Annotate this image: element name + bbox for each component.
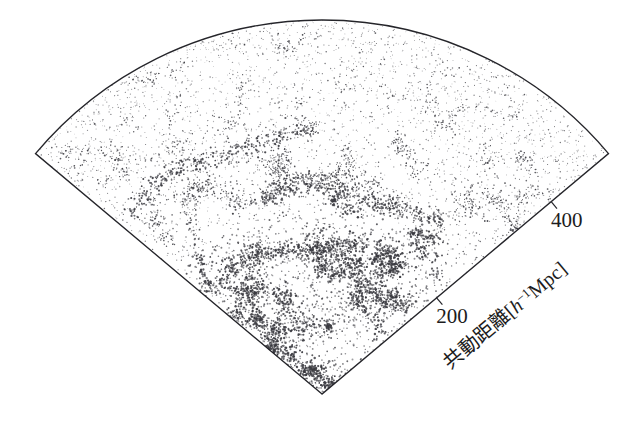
galaxy-point [279, 94, 280, 95]
galaxy-point [334, 295, 336, 297]
galaxy-point [261, 192, 262, 193]
galaxy-point [206, 140, 207, 141]
galaxy-point [270, 211, 271, 212]
galaxy-point [342, 289, 344, 291]
galaxy-point [531, 187, 532, 188]
galaxy-point [269, 144, 270, 145]
galaxy-point [187, 54, 188, 55]
galaxy-point [235, 267, 236, 268]
galaxy-point [145, 166, 146, 167]
galaxy-point [273, 138, 275, 140]
galaxy-point [327, 276, 329, 278]
galaxy-point [405, 41, 406, 42]
galaxy-point [327, 188, 329, 190]
galaxy-point [374, 183, 375, 184]
galaxy-point [133, 154, 134, 155]
galaxy-point [275, 197, 277, 199]
galaxy-point [106, 178, 108, 180]
galaxy-point [448, 123, 450, 125]
galaxy-point [349, 168, 350, 169]
galaxy-point [242, 86, 244, 88]
galaxy-point [419, 216, 421, 218]
galaxy-point [469, 216, 471, 218]
galaxy-point [353, 84, 354, 85]
galaxy-point [358, 295, 360, 297]
galaxy-point [484, 220, 486, 222]
galaxy-point [243, 43, 244, 44]
galaxy-point [542, 98, 543, 99]
galaxy-point [453, 214, 454, 215]
galaxy-point [441, 273, 443, 275]
galaxy-point [461, 181, 462, 182]
galaxy-point [467, 107, 468, 108]
galaxy-point [377, 256, 378, 257]
galaxy-point [339, 146, 340, 147]
galaxy-point [474, 85, 475, 86]
galaxy-point [268, 358, 270, 360]
galaxy-point [509, 106, 510, 107]
galaxy-point [325, 203, 327, 205]
galaxy-point [125, 92, 126, 93]
galaxy-point [315, 370, 317, 372]
galaxy-point [275, 183, 277, 185]
galaxy-point [363, 266, 365, 268]
galaxy-point [299, 100, 300, 101]
galaxy-point [189, 49, 190, 50]
galaxy-point [369, 30, 370, 31]
galaxy-point [129, 208, 131, 210]
galaxy-point [458, 162, 459, 163]
galaxy-point [372, 229, 374, 231]
galaxy-point [504, 84, 505, 85]
galaxy-point [367, 94, 368, 95]
galaxy-point [325, 367, 327, 369]
galaxy-point [186, 224, 187, 225]
galaxy-point [528, 170, 530, 172]
galaxy-point [267, 284, 268, 285]
galaxy-point [169, 92, 170, 93]
galaxy-point [279, 86, 280, 87]
galaxy-point [410, 201, 411, 202]
galaxy-point [75, 137, 76, 138]
galaxy-point [297, 91, 298, 92]
galaxy-point [316, 235, 318, 237]
galaxy-point [107, 89, 109, 91]
galaxy-point [212, 156, 213, 157]
galaxy-point [156, 188, 158, 190]
galaxy-point [347, 250, 348, 251]
galaxy-point [435, 290, 437, 292]
galaxy-point [339, 190, 341, 192]
galaxy-point [322, 255, 323, 256]
galaxy-point [277, 252, 279, 254]
galaxy-point [304, 55, 305, 56]
galaxy-point [282, 163, 283, 164]
galaxy-point [145, 241, 146, 242]
galaxy-point [437, 83, 438, 84]
galaxy-point [500, 212, 501, 213]
galaxy-point [153, 101, 154, 102]
galaxy-point [345, 242, 346, 243]
galaxy-point [465, 215, 466, 216]
galaxy-point [431, 261, 433, 263]
galaxy-point [346, 182, 347, 183]
galaxy-point [435, 67, 436, 68]
galaxy-point [441, 128, 442, 129]
galaxy-point [426, 220, 428, 222]
galaxy-point [402, 261, 403, 262]
galaxy-point [335, 88, 336, 89]
galaxy-point [301, 255, 302, 256]
galaxy-point [213, 282, 215, 284]
galaxy-point [219, 270, 221, 272]
galaxy-point [324, 273, 326, 275]
galaxy-point [99, 149, 100, 150]
galaxy-point [246, 131, 247, 132]
galaxy-point [277, 160, 278, 161]
galaxy-point [329, 379, 330, 380]
galaxy-point [278, 233, 279, 234]
galaxy-point [397, 279, 398, 280]
galaxy-point [519, 214, 520, 215]
galaxy-point [334, 253, 336, 255]
galaxy-point [271, 328, 273, 330]
galaxy-point [355, 240, 357, 242]
galaxy-point [580, 136, 581, 137]
galaxy-point [567, 142, 568, 143]
